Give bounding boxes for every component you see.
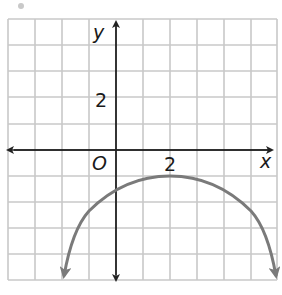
y-axis-label: y: [92, 21, 105, 43]
x-tick-label-2: 2: [164, 153, 176, 175]
stain-dot: [18, 3, 24, 9]
parabola-curve: [64, 176, 170, 276]
origin-label: O: [92, 152, 107, 174]
x-axis-label: x: [259, 150, 272, 172]
coordinate-plane: y x O 2 2: [0, 0, 282, 295]
parabola-curve-right: [170, 176, 276, 276]
y-tick-label-2: 2: [95, 89, 107, 111]
